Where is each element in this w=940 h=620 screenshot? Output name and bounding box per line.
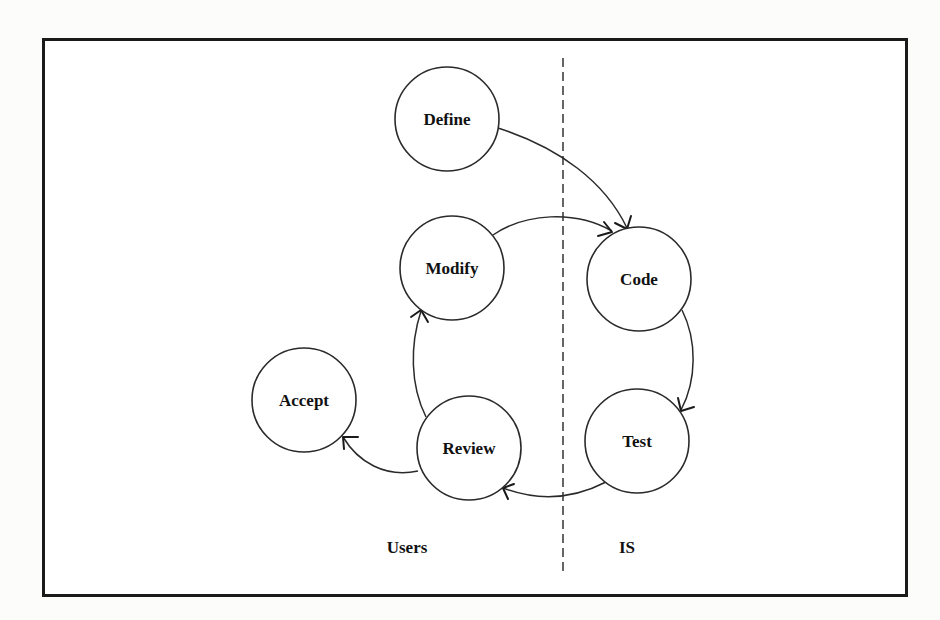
edge-test-to-review: [503, 482, 606, 499]
node-label: Define: [423, 110, 471, 129]
node-label: Accept: [279, 391, 329, 410]
node-label: Test: [622, 432, 652, 451]
node-label: Code: [620, 270, 658, 289]
edge-code-to-test: [678, 310, 694, 411]
page: Define Modify Code Test Review Accept Us…: [0, 0, 940, 620]
node-define[interactable]: Define: [395, 67, 499, 171]
node-label: Modify: [426, 259, 479, 278]
arrowhead-icon: [598, 222, 612, 236]
arrowhead-icon: [615, 216, 631, 229]
node-review[interactable]: Review: [417, 396, 521, 500]
node-code[interactable]: Code: [587, 227, 691, 331]
node-accept[interactable]: Accept: [252, 348, 356, 452]
node-modify[interactable]: Modify: [400, 216, 504, 320]
edge-review-to-modify: [411, 310, 428, 417]
node-test[interactable]: Test: [585, 389, 689, 493]
process-diagram: Define Modify Code Test Review Accept Us…: [0, 0, 940, 620]
edge-define-to-code: [498, 128, 631, 229]
edge-modify-to-code: [493, 217, 612, 236]
lane-label-users: Users: [387, 538, 428, 557]
lane-label-is: IS: [619, 538, 635, 557]
node-label: Review: [443, 439, 497, 458]
edge-review-to-accept: [343, 437, 418, 473]
